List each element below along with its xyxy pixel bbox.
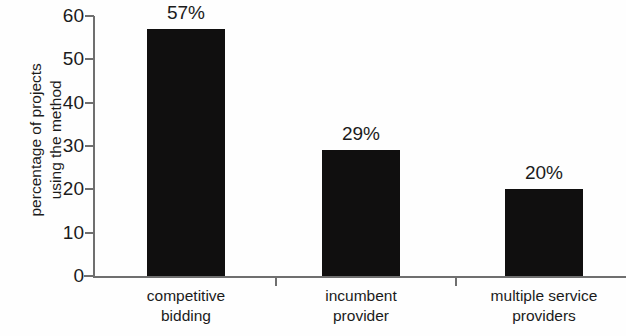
y-tick-mark [85, 232, 94, 234]
y-tick-label: 0 [73, 265, 84, 287]
y-tick-mark [84, 275, 94, 277]
y-tick-label: 30 [63, 135, 84, 157]
y-tick-mark [85, 145, 94, 147]
y-tick-mark [85, 102, 94, 104]
x-category-label-line1: incumbent [325, 286, 397, 306]
y-tick-label: 50 [63, 48, 84, 70]
x-category-label-line2: providers [491, 306, 598, 326]
bar [147, 29, 225, 276]
x-tick-mark [455, 276, 457, 286]
bar-value-label: 20% [525, 162, 563, 184]
x-category-label-line1: multiple service [491, 286, 598, 306]
y-tick-mark [85, 58, 94, 60]
x-category-label: incumbentprovider [325, 286, 397, 326]
x-category-label-line2: provider [325, 306, 397, 326]
x-category-label: multiple serviceproviders [491, 286, 598, 326]
x-category-label: competitivebidding [147, 286, 225, 326]
plot-area: 0102030405060 57%29%20% [93, 16, 626, 276]
x-category-label-line2: bidding [147, 306, 225, 326]
bar-value-label: 29% [342, 123, 380, 145]
y-tick-label: 60 [63, 5, 84, 27]
y-tick-mark [85, 15, 94, 17]
y-tick-mark [85, 188, 94, 190]
y-tick-label: 40 [63, 92, 84, 114]
x-tick-mark [275, 276, 277, 286]
bar-value-label: 57% [167, 2, 205, 24]
bar [322, 150, 400, 276]
x-axis-line [93, 276, 626, 278]
y-tick-label: 10 [63, 222, 84, 244]
x-category-label-line1: competitive [147, 286, 225, 306]
bar [505, 189, 583, 276]
chart-canvas: percentage of projects using the method … [0, 0, 626, 336]
y-axis-title-line1: percentage of projects [26, 63, 46, 216]
y-tick-label: 20 [63, 178, 84, 200]
